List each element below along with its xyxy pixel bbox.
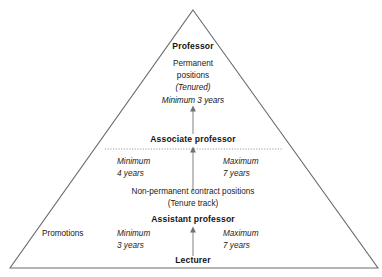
rank-lecturer: Lecturer: [175, 255, 211, 267]
duration-assistant-maximum-line-1: Maximum: [223, 228, 258, 240]
professor-description: Permanent positions (Tenured): [173, 58, 213, 93]
rank-associate-professor: Associate professor: [150, 134, 235, 146]
duration-assistant-minimum-line-2: 3 years: [117, 240, 150, 252]
professor-description-line-1: Permanent: [173, 58, 213, 70]
duration-associate-minimum-line-2: 4 years: [117, 168, 150, 180]
rank-professor: Professor: [172, 41, 213, 53]
duration-assistant-minimum: Minimum 3 years: [117, 228, 150, 252]
pyramid-diagram: Professor Permanent positions (Tenured) …: [0, 0, 382, 277]
tenure-track-description: Non-permanent contract positions (Tenure…: [132, 186, 255, 210]
duration-associate-maximum: Maximum 7 years: [223, 156, 258, 180]
duration-associate-minimum: Minimum 4 years: [117, 156, 150, 180]
promotions-axis-label: Promotions: [42, 228, 83, 240]
duration-assistant-minimum-line-1: Minimum: [117, 228, 150, 240]
tenure-track-description-line-1: Non-permanent contract positions: [132, 186, 255, 198]
duration-associate-maximum-line-2: 7 years: [223, 168, 258, 180]
duration-associate-maximum-line-1: Maximum: [223, 156, 258, 168]
duration-professor-entry: Minimum 3 years: [162, 95, 224, 107]
duration-assistant-maximum: Maximum 7 years: [223, 228, 258, 252]
professor-description-line-2: positions: [173, 70, 213, 82]
tenure-track-description-line-2: (Tenure track): [132, 198, 255, 210]
duration-associate-minimum-line-1: Minimum: [117, 156, 150, 168]
rank-assistant-professor: Assistant professor: [151, 214, 235, 226]
duration-assistant-maximum-line-2: 7 years: [223, 240, 258, 252]
professor-description-line-3: (Tenured): [173, 82, 213, 94]
